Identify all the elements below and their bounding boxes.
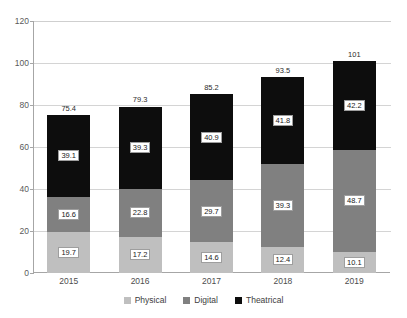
legend-label: Theatrical <box>246 296 283 305</box>
bar-group: 41.839.312.493.5 <box>261 21 304 273</box>
legend-swatch-icon <box>235 297 242 304</box>
bar-group: 39.116.619.775.4 <box>47 21 90 273</box>
bar-group: 40.929.714.685.2 <box>190 21 233 273</box>
legend-item-theatrical[interactable]: Theatrical <box>235 296 283 305</box>
y-axis-tick-labels: 020406080100120 <box>0 21 29 273</box>
legend-label: Digital <box>194 296 218 305</box>
bar-segment-theatrical: 39.3 <box>119 107 162 190</box>
x-axis-tick-label: 2015 <box>59 276 78 286</box>
bar-total-label: 93.5 <box>276 66 291 75</box>
bar-total-label: 79.3 <box>133 95 148 104</box>
bar-segment-digital: 29.7 <box>190 180 233 242</box>
bar-stack: 39.116.619.7 <box>47 115 90 273</box>
y-axis-tick-label: 0 <box>24 269 29 278</box>
bar-segment-physical: 14.6 <box>190 242 233 273</box>
y-axis-tick-label: 20 <box>20 227 29 236</box>
bar-segment-value-label: 39.1 <box>58 150 79 161</box>
y-axis-tick-label: 60 <box>20 143 29 152</box>
x-axis-tick-label: 2017 <box>202 276 221 286</box>
bar-segment-theatrical: 41.8 <box>261 77 304 165</box>
legend-label: Physical <box>135 296 167 305</box>
bar-segment-value-label: 40.9 <box>201 132 222 143</box>
bar-segment-value-label: 41.8 <box>273 115 294 126</box>
bar-segment-digital: 39.3 <box>261 164 304 247</box>
bar-segment-value-label: 12.4 <box>273 254 294 265</box>
bar-stack: 39.322.817.2 <box>119 107 162 274</box>
bar-segment-value-label: 14.6 <box>201 252 222 263</box>
x-axis-tick-labels: 20152016201720182019 <box>33 276 390 292</box>
bar-segment-digital: 48.7 <box>333 150 376 252</box>
x-axis-tick-label: 2019 <box>345 276 364 286</box>
x-axis-tick-label: 2018 <box>273 276 292 286</box>
legend-item-physical[interactable]: Physical <box>124 296 167 305</box>
legend-swatch-icon <box>124 297 131 304</box>
y-axis-tick-label: 40 <box>20 185 29 194</box>
bar-group: 39.322.817.279.3 <box>119 21 162 273</box>
y-axis-tick-label: 80 <box>20 101 29 110</box>
legend-swatch-icon <box>183 297 190 304</box>
bar-stack: 41.839.312.4 <box>261 77 304 273</box>
legend-item-digital[interactable]: Digital <box>183 296 218 305</box>
bar-total-label: 85.2 <box>204 83 219 92</box>
bars-layer: 39.116.619.775.439.322.817.279.340.929.7… <box>33 21 390 273</box>
bar-segment-value-label: 22.8 <box>130 207 151 218</box>
bar-group: 42.248.710.1101 <box>333 21 376 273</box>
bar-segment-value-label: 48.7 <box>344 195 365 206</box>
stacked-bar-chart: 020406080100120 39.116.619.775.439.322.8… <box>0 0 407 318</box>
bar-segment-physical: 17.2 <box>119 237 162 273</box>
bar-segment-physical: 19.7 <box>47 232 90 273</box>
y-axis-tick-label: 100 <box>15 59 29 68</box>
bar-segment-theatrical: 39.1 <box>47 115 90 197</box>
bar-segment-physical: 12.4 <box>261 247 304 273</box>
bar-segment-theatrical: 40.9 <box>190 94 233 180</box>
bar-segment-value-label: 39.3 <box>273 200 294 211</box>
bar-total-label: 75.4 <box>61 104 76 113</box>
chart-legend: PhysicalDigitalTheatrical <box>0 296 407 305</box>
bar-segment-value-label: 16.6 <box>58 209 79 220</box>
bar-segment-digital: 16.6 <box>47 197 90 232</box>
bar-segment-digital: 22.8 <box>119 189 162 237</box>
bar-total-label: 101 <box>348 50 361 59</box>
bar-segment-physical: 10.1 <box>333 252 376 273</box>
bar-segment-value-label: 17.2 <box>130 249 151 260</box>
x-axis-tick-label: 2016 <box>131 276 150 286</box>
bar-segment-theatrical: 42.2 <box>333 61 376 150</box>
y-axis-tick <box>30 273 34 274</box>
bar-segment-value-label: 29.7 <box>201 206 222 217</box>
y-axis-tick-label: 120 <box>15 17 29 26</box>
bar-segment-value-label: 10.1 <box>344 257 365 268</box>
bar-segment-value-label: 39.3 <box>130 142 151 153</box>
bar-stack: 42.248.710.1 <box>333 61 376 273</box>
bar-segment-value-label: 19.7 <box>58 247 79 258</box>
bar-stack: 40.929.714.6 <box>190 94 233 273</box>
bar-segment-value-label: 42.2 <box>344 100 365 111</box>
